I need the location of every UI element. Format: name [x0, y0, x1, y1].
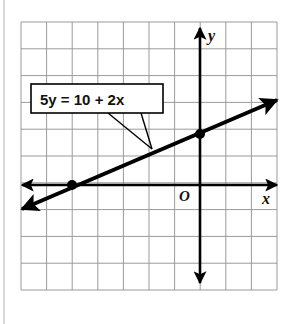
point-y-intercept: [195, 129, 205, 139]
coordinate-plane: 5y = 10 + 2x y x O: [0, 0, 284, 324]
equation-label: 5y = 10 + 2x: [40, 91, 125, 108]
x-axis-label: x: [261, 190, 270, 207]
y-axis-label: y: [206, 27, 216, 45]
origin-label: O: [179, 188, 190, 204]
graph-figure: 5y = 10 + 2x y x O: [0, 0, 284, 324]
point-x-intercept: [67, 180, 77, 190]
